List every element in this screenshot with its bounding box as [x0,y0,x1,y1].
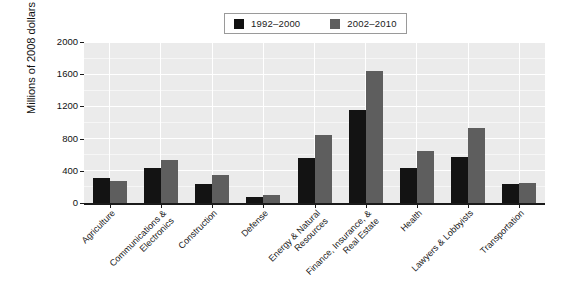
bar-3-series-2 [263,195,280,203]
gray-square-icon [330,19,340,29]
bar-0-series-1 [93,178,110,203]
y-tick-mark-800 [80,139,84,140]
bar-0-series-2 [110,181,127,203]
bar-7-series-1 [451,157,468,203]
y-tick-mark-1200 [80,106,84,107]
bar-1-series-2 [161,160,178,203]
bar-4-series-1 [298,158,315,203]
y-axis-title: Millions of 2008 dollars [25,0,37,138]
y-tick-mark-400 [80,171,84,172]
y-tick-label-1200: 1200 [38,100,78,111]
bar-8-series-1 [502,184,519,203]
y-tick-label-1600: 1600 [38,68,78,79]
bar-6-series-2 [417,151,434,203]
bar-8-series-2 [519,183,536,203]
legend-entry-1: 1992–2000 [234,18,300,29]
y-tick-label-400: 400 [38,165,78,176]
legend-label-2: 2002–2010 [347,18,396,29]
black-square-icon [234,19,244,29]
vgridline-3 [263,42,264,203]
bar-1-series-1 [144,168,161,203]
legend-label-1: 1992–2000 [251,18,300,29]
bar-7-series-2 [468,128,485,203]
bar-3-series-1 [246,197,263,203]
y-tick-mark-2000 [80,42,84,43]
y-tick-label-2000: 2000 [38,36,78,47]
bar-2-series-2 [212,175,229,203]
vgridline-8 [519,42,520,203]
bar-2-series-1 [195,184,212,203]
y-tick-label-0: 0 [38,197,78,208]
y-tick-label-800: 800 [38,133,78,144]
bar-6-series-1 [400,168,417,203]
bar-4-series-2 [315,135,332,203]
chart-legend: 1992–2000 2002–2010 [224,13,407,34]
bar-5-series-2 [366,71,383,203]
legend-entry-2: 2002–2010 [330,18,396,29]
bar-5-series-1 [349,110,366,203]
y-tick-mark-1600 [80,74,84,75]
bar-chart: 1992–2000 2002–2010 Millions of 2008 dol… [0,0,567,297]
